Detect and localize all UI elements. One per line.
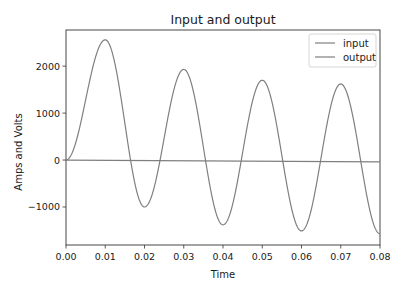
y-tick-label: −1000 (28, 201, 60, 212)
x-tick-label: 0.02 (134, 251, 155, 262)
x-tick-label: 0.08 (369, 251, 390, 262)
x-tick-label: 0.06 (291, 251, 312, 262)
x-tick-label: 0.01 (95, 251, 116, 262)
chart-title: Input and output (170, 12, 275, 27)
chart: Input and output 200010000−1000 0.000.01… (0, 0, 403, 290)
legend-output-label: output (343, 52, 376, 63)
x-axis-label: Time (210, 269, 235, 280)
legend: input output (309, 34, 376, 67)
y-tick-label: 1000 (36, 108, 60, 119)
y-tick-label: 2000 (36, 61, 60, 72)
x-tick-label: 0.07 (330, 251, 351, 262)
x-tick-label: 0.04 (212, 251, 233, 262)
y-axis: 200010000−1000 (28, 61, 66, 213)
x-tick-label: 0.05 (252, 251, 273, 262)
y-axis-label: Amps and Volts (13, 113, 24, 190)
legend-input-label: input (343, 38, 369, 49)
x-axis: 0.000.010.020.030.040.050.060.070.08 (55, 245, 390, 262)
x-tick-label: 0.03 (173, 251, 194, 262)
y-tick-label: 0 (54, 155, 60, 166)
x-tick-label: 0.00 (55, 251, 76, 262)
